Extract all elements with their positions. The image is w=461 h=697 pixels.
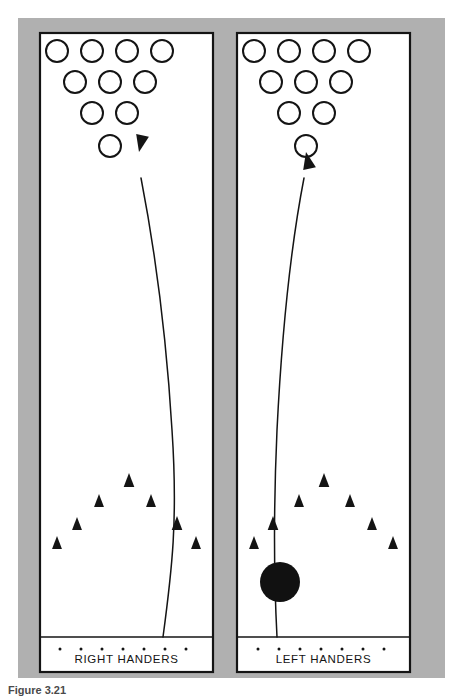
pin-2 xyxy=(81,102,103,124)
figure-caption: Figure 3.21 xyxy=(8,684,66,696)
approach-dot-7 xyxy=(383,648,386,651)
approach-dot-6 xyxy=(362,648,365,651)
pin-7 xyxy=(348,40,370,62)
pin-5 xyxy=(295,71,317,93)
approach-dot-5 xyxy=(341,648,344,651)
pin-10 xyxy=(151,40,173,62)
pin-6 xyxy=(260,71,282,93)
approach-dot-6 xyxy=(164,648,167,651)
lane-left-handers: LEFT HANDERS xyxy=(237,33,410,672)
pin-6 xyxy=(134,71,156,93)
bowling-ball xyxy=(260,562,300,602)
pin-9 xyxy=(116,40,138,62)
approach-dot-3 xyxy=(299,648,302,651)
approach-dot-1 xyxy=(257,648,260,651)
approach-dot-2 xyxy=(278,648,281,651)
lane-label-left-handers: LEFT HANDERS xyxy=(276,653,372,665)
pin-4 xyxy=(330,71,352,93)
pin-2 xyxy=(313,102,335,124)
pin-8 xyxy=(81,40,103,62)
lane-label-right-handers: RIGHT HANDERS xyxy=(74,653,178,665)
approach-dot-5 xyxy=(143,648,146,651)
figure-canvas: RIGHT HANDERSLEFT HANDERS Figure 3.21 xyxy=(0,0,461,697)
pin-3 xyxy=(278,102,300,124)
pin-1 xyxy=(99,135,121,157)
pin-8 xyxy=(313,40,335,62)
lane-right-handers: RIGHT HANDERS xyxy=(40,33,213,672)
pin-10 xyxy=(243,40,265,62)
approach-dot-2 xyxy=(80,648,83,651)
approach-dot-1 xyxy=(59,648,62,651)
approach-dot-7 xyxy=(185,648,188,651)
pin-4 xyxy=(64,71,86,93)
pin-5 xyxy=(99,71,121,93)
bowling-lane-figure: RIGHT HANDERSLEFT HANDERS Figure 3.21 xyxy=(0,0,461,697)
approach-dot-4 xyxy=(320,648,323,651)
pin-7 xyxy=(46,40,68,62)
approach-dot-4 xyxy=(122,648,125,651)
approach-dot-3 xyxy=(101,648,104,651)
lane-panel-right-handers xyxy=(40,33,213,672)
pin-9 xyxy=(278,40,300,62)
pin-3 xyxy=(116,102,138,124)
